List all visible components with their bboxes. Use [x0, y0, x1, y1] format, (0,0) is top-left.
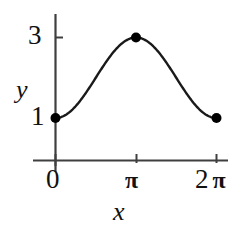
y-tick-label-3: 3: [28, 22, 42, 49]
chart-figure: 3 1 0 π 2π y x: [0, 0, 250, 230]
x-tick-label-pi: π: [125, 168, 138, 192]
data-point-marker-left: [51, 113, 61, 123]
y-tick-label-1: 1: [31, 103, 45, 130]
data-point-marker-right: [212, 113, 222, 123]
y-axis-title: y: [16, 77, 28, 103]
curve-path: [56, 38, 217, 119]
x-tick-label-0: 0: [46, 166, 60, 193]
x-axis-title: x: [113, 199, 125, 225]
x-tick-label-2pi-number: 2: [195, 164, 209, 194]
data-point-marker-peak: [131, 33, 141, 43]
x-tick-label-2pi-symbol: π: [213, 167, 226, 193]
x-tick-label-2pi: 2π: [195, 166, 226, 193]
